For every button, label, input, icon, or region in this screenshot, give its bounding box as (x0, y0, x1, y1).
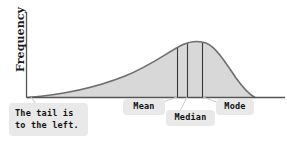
y-axis-label: Frequency (14, 2, 27, 78)
tail-annotation-line-2: to the left. (15, 120, 79, 131)
mode-label-callout: Mode (216, 99, 254, 115)
median-label-callout: Median (166, 110, 215, 126)
tail-annotation-callout: The tail is to the left. (9, 103, 88, 136)
mean-label-callout: Mean (123, 99, 165, 115)
tail-annotation-line-1: The tail is (15, 108, 79, 119)
median-leader-line (180, 97, 187, 111)
skewed-distribution-figure: Frequency The tail is to the left. Mean … (0, 0, 287, 145)
density-curve-area (28, 41, 256, 97)
